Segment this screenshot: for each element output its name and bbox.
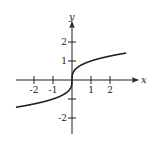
- x-tick-label: -1: [49, 85, 58, 95]
- y-tick-label: -2: [58, 113, 67, 123]
- x-tick-label: 2: [107, 85, 113, 95]
- x-axis-label: x: [141, 74, 147, 85]
- x-tick-label: -2: [30, 85, 39, 95]
- x-tick-label: 1: [88, 85, 94, 95]
- y-tick-label: 2: [61, 37, 67, 47]
- y-tick-label: 1: [61, 56, 67, 66]
- y-axis-label: y: [68, 11, 75, 22]
- chart: -2-11221-2 x y: [0, 0, 155, 149]
